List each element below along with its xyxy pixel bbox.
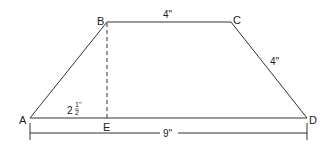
measurement-top-BC: 4" [163, 9, 173, 20]
vertex-label-A: A [19, 114, 27, 126]
vertex-label-B: B [97, 15, 104, 27]
measurement-side-CD: 4" [270, 56, 280, 67]
height-whole: 2 [67, 105, 73, 116]
measurement-height-BE: 2 1 2 " [67, 101, 82, 116]
measurement-base-AD: 9" [163, 128, 173, 139]
side-AB [30, 22, 107, 118]
height-unit: " [79, 101, 82, 108]
vertex-label-C: C [233, 14, 241, 26]
side-CD [231, 22, 307, 118]
height-denominator: 2 [75, 109, 79, 116]
vertex-label-D: D [309, 114, 317, 126]
trapezoid-diagram: A B C D E 4" 4" 9" 2 1 2 " [0, 0, 334, 146]
vertex-label-E: E [103, 121, 110, 133]
